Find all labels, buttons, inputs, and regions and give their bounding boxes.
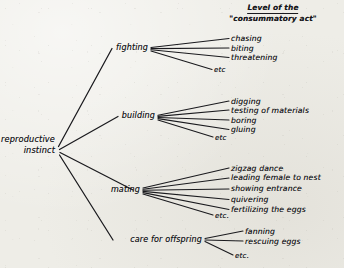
edge-root-building [60,117,119,150]
leaf-leading-female-to-nest[interactable]: leading female to nest [231,173,321,182]
heading-line-1: Level of the [247,3,298,14]
leaf-etc-mating[interactable]: etc. [215,211,229,220]
leaf-digging[interactable]: digging [231,97,261,106]
leaf-fertilizing-the-eggs[interactable]: fertilizing the eggs [231,205,306,214]
leaf-threatening[interactable]: threatening [231,53,278,62]
heading-line-2: "consummatory act" [229,14,317,23]
leaf-rescuing-eggs[interactable]: rescuing eggs [245,237,301,246]
leaf-zigzag-dance[interactable]: zigzag dance [231,164,283,173]
leaf-etc-building[interactable]: etc [215,133,227,142]
leaf-etc-fighting[interactable]: etc [214,65,226,74]
leaf-biting[interactable]: biting [231,44,254,53]
edge-root-fighting [59,49,113,147]
leaf-quivering[interactable]: quivering [231,195,269,204]
node-care-for-offspring[interactable]: care for offspring [130,235,202,244]
leaf-showing-entrance[interactable]: showing entrance [231,184,302,193]
leaf-chasing[interactable]: chasing [231,34,262,43]
node-building[interactable]: building [122,111,155,120]
diagram-heading: Level of the "consummatory act" [229,3,317,24]
root-label-line-2: instinct [24,145,55,155]
node-reproductive-instinct[interactable]: reproductive instinct [1,134,55,155]
diagram-canvas: Level of the "consummatory act" reproduc… [0,0,344,268]
leaf-boring[interactable]: boring [231,116,257,125]
leaf-etc-care-for-offspring[interactable]: etc. [235,251,249,260]
root-label-line-1: reproductive [1,134,55,144]
node-mating[interactable]: mating [111,185,140,194]
node-fighting[interactable]: fighting [116,43,148,52]
leaf-fanning[interactable]: fanning [245,227,275,236]
leaf-gluing[interactable]: gluing [231,125,256,134]
leaf-testing-of-materials[interactable]: testing of materials [231,106,309,115]
fan-mating [143,168,229,215]
edge-root-care [60,155,114,240]
